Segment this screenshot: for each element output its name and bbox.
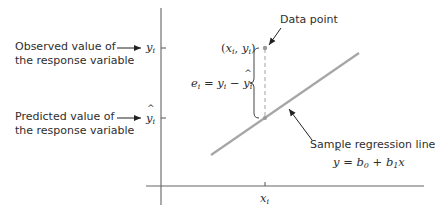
observed-label: Observed value of the response variable [15, 40, 134, 68]
y-i-label: yi [146, 40, 155, 55]
regression-arrow [289, 109, 312, 140]
predicted-label-line2: the response variable [15, 124, 134, 138]
data-point [263, 46, 267, 50]
observed-label-line1: Observed value of [15, 40, 134, 54]
predicted-point [263, 116, 267, 120]
predicted-label-line1: Predicted value of [15, 110, 134, 124]
x-i-label: xi [260, 191, 269, 206]
point-coordinates: (xi, yi) [221, 41, 255, 56]
y-hat-i-label: yi [146, 111, 155, 126]
residual-equation: ei = yi − yi [191, 76, 252, 91]
data-point-arrow [269, 28, 281, 45]
predicted-label: Predicted value of the response variable [15, 110, 134, 138]
observed-label-line2: the response variable [15, 54, 134, 68]
regression-equation: y = b0 + b1x [333, 155, 405, 170]
regression-line-label: Sample regression line [310, 138, 435, 152]
data-point-label: Data point [280, 13, 338, 27]
